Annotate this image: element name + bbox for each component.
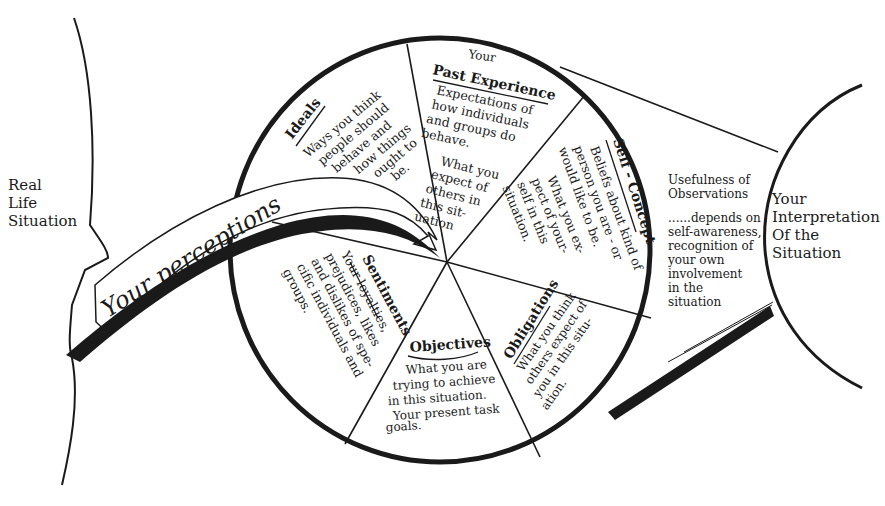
- svg-text:involvement: involvement: [668, 267, 742, 281]
- svg-text:your own: your own: [667, 253, 725, 267]
- svg-text:Life: Life: [8, 194, 37, 212]
- perception-diagram: Your perceptions Real Life Situation Ide…: [0, 0, 885, 506]
- svg-text:......depends on: ......depends on: [668, 211, 761, 225]
- svg-text:recognition of: recognition of: [668, 239, 755, 253]
- svg-text:Your: Your: [771, 190, 807, 208]
- svg-text:Real: Real: [8, 176, 42, 194]
- svg-text:in the: in the: [668, 281, 703, 295]
- svg-text:Situation: Situation: [8, 212, 78, 230]
- cone-lower-line-1: [668, 305, 772, 362]
- usefulness-note: Usefulness of Observations ......depends…: [667, 173, 762, 309]
- svg-text:Observations: Observations: [668, 187, 748, 201]
- svg-text:situation: situation: [668, 295, 722, 309]
- svg-text:self-awareness,: self-awareness,: [668, 225, 762, 239]
- svg-text:goals.: goals.: [385, 418, 422, 434]
- svg-text:Interpretation: Interpretation: [772, 208, 880, 226]
- svg-text:Of the: Of the: [772, 226, 819, 244]
- real-life-label: Real Life Situation: [8, 176, 78, 230]
- real-life-boundary: [62, 18, 108, 485]
- svg-text:Situation: Situation: [772, 244, 842, 262]
- svg-text:Usefulness of: Usefulness of: [668, 173, 752, 187]
- interpretation-label: Your Interpretation Of the Situation: [771, 190, 880, 262]
